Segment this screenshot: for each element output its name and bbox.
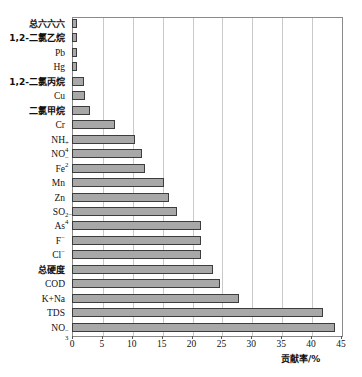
bar-hg[interactable]	[72, 62, 77, 71]
bar-zn[interactable]	[72, 193, 169, 202]
y-label-zongliuliuliu: 总六六六	[29, 17, 65, 31]
bar-row	[72, 191, 342, 205]
x-axis-title: 贡献率/%	[281, 352, 320, 365]
x-axis-ticks: 0 5 10 15 20 25 30 35 40 45	[72, 336, 342, 352]
bar-fe[interactable]	[72, 164, 145, 173]
y-label-cu: Cu	[54, 89, 65, 103]
bar-f[interactable]	[72, 236, 201, 245]
bar-row	[72, 162, 342, 176]
bar-no3[interactable]	[72, 323, 335, 332]
y-label-zn: Zn	[54, 191, 65, 205]
y-label-cr: Cr	[56, 118, 66, 132]
x-tick-label-40: 40	[306, 339, 316, 349]
bars-layer	[72, 17, 342, 335]
bar-cu[interactable]	[72, 91, 85, 100]
bar-k-na[interactable]	[72, 294, 239, 303]
no3-count: 3	[65, 331, 68, 345]
x-tick-label-35: 35	[276, 339, 286, 349]
bar-zongliuliuliu[interactable]	[72, 19, 77, 28]
bar-mn[interactable]	[72, 178, 164, 187]
bar-row	[72, 60, 342, 74]
bar-row	[72, 75, 342, 89]
so4-count: 4	[65, 215, 68, 229]
y-label-tds: TDS	[47, 306, 65, 320]
y-label-so4: SO2−4	[53, 205, 65, 219]
bar-row	[72, 176, 342, 190]
bar-dichloropropane[interactable]	[72, 77, 84, 86]
y-axis-labels: 总六六六 1,2-二氯乙烷 Pb Hg 1,2-二氯丙烷 Cu 二氯甲烷 Cr …	[0, 17, 69, 335]
bar-so4[interactable]	[72, 207, 177, 216]
y-label-dichloroethane: 1,2-二氯乙烷	[9, 31, 65, 45]
bar-tds[interactable]	[72, 308, 323, 317]
x-tick-label-20: 20	[187, 339, 197, 349]
bar-nh4[interactable]	[72, 135, 135, 144]
y-label-k-na: K+Na	[42, 292, 65, 306]
bar-row	[72, 205, 342, 219]
bar-no2[interactable]	[72, 149, 142, 158]
y-label-cod: COD	[45, 277, 65, 291]
bar-row	[72, 219, 342, 233]
x-tick-label-15: 15	[157, 339, 167, 349]
bar-cl[interactable]	[72, 250, 201, 259]
bar-row	[72, 321, 342, 335]
y-label-total-hardness: 总硬度	[38, 263, 65, 277]
bar-row	[72, 31, 342, 45]
y-label-nh4: NH+4	[51, 133, 65, 147]
bar-row	[72, 263, 342, 277]
bar-chart: 总六六六 1,2-二氯乙烷 Pb Hg 1,2-二氯丙烷 Cu 二氯甲烷 Cr …	[0, 0, 362, 377]
bar-row	[72, 147, 342, 161]
bar-row	[72, 292, 342, 306]
bar-row	[72, 89, 342, 103]
y-label-fe: Fe	[56, 162, 66, 176]
x-tick-label-10: 10	[127, 339, 137, 349]
x-tick-label-0: 0	[70, 339, 75, 349]
bar-row	[72, 133, 342, 147]
x-tick-label-5: 5	[100, 339, 105, 349]
bar-row	[72, 118, 342, 132]
x-tick-label-45: 45	[336, 339, 346, 349]
y-label-f: F−	[56, 234, 65, 248]
y-label-mn: Mn	[52, 176, 65, 190]
y-label-dichloromethane: 二氯甲烷	[29, 104, 65, 118]
y-label-pb: Pb	[55, 46, 65, 60]
bar-dichloroethane[interactable]	[72, 33, 77, 42]
y-label-hg: Hg	[53, 60, 65, 74]
bar-cod[interactable]	[72, 279, 220, 288]
y-label-no3: NO−3	[51, 321, 65, 335]
bar-cr[interactable]	[72, 120, 115, 129]
y-label-no2: NO−2	[51, 147, 65, 161]
bar-row	[72, 46, 342, 60]
bar-dichloromethane[interactable]	[72, 106, 90, 115]
x-tick-label-25: 25	[217, 339, 227, 349]
bar-row	[72, 234, 342, 248]
y-label-as: As	[54, 219, 65, 233]
bar-as[interactable]	[72, 221, 201, 230]
bar-row	[72, 104, 342, 118]
bar-row	[72, 17, 342, 31]
bar-row	[72, 306, 342, 320]
no2-count: 2	[65, 158, 68, 172]
bar-total-hardness[interactable]	[72, 265, 213, 274]
f-charge: −	[61, 234, 65, 241]
y-label-dichloropropane: 1,2-二氯丙烷	[9, 75, 65, 89]
bar-row	[72, 277, 342, 291]
x-tick-label-30: 30	[247, 339, 257, 349]
bar-row	[72, 248, 342, 262]
cl-charge: −	[61, 248, 65, 255]
bar-pb[interactable]	[72, 48, 77, 57]
y-label-cl: Cl−	[52, 248, 65, 262]
